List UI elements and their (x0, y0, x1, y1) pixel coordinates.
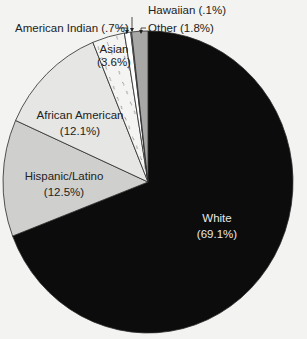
label-hispanic-pct: (12.5%) (44, 186, 84, 198)
pie-slices (3, 31, 293, 333)
label-white-pct: (69.1%) (197, 228, 237, 240)
label-african-american-pct: (12.1%) (60, 125, 100, 137)
label-hispanic-name: Hispanic/Latino (25, 170, 104, 182)
label-white-name: White (202, 212, 231, 224)
label-african-american-name: African American (37, 109, 124, 121)
callout-other: Other (1.8%) (148, 22, 214, 34)
label-asian-pct: (3.6%) (97, 56, 131, 68)
pie-chart: White (69.1%) Hispanic/Latino (12.5%) Af… (0, 0, 307, 339)
callout-hawaiian: Hawaiian (.1%) (148, 4, 226, 16)
callout-american-indian: American Indian (.7%) (15, 22, 129, 34)
label-asian-name: Asian (100, 43, 129, 55)
